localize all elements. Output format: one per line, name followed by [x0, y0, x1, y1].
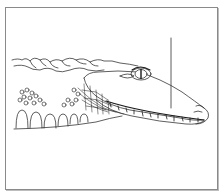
flank-scales: [18, 88, 80, 107]
back-ridge: [12, 58, 138, 72]
teeth: [106, 101, 204, 122]
eye: [120, 67, 151, 80]
crocodile-illustration: [0, 0, 222, 196]
belly-scutes: [14, 110, 122, 129]
